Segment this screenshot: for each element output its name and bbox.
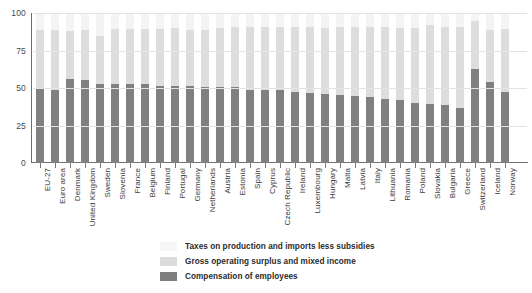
bar-segment-taxes bbox=[231, 13, 239, 27]
bar-segment-taxes bbox=[321, 13, 329, 28]
x-axis-tick-label: Austria bbox=[223, 168, 232, 194]
gridline bbox=[33, 88, 527, 89]
bar-segment-gross-operating-surplus bbox=[141, 29, 149, 85]
bar-segment-compensation bbox=[411, 103, 419, 163]
y-axis-tick-label: 0 bbox=[21, 158, 26, 168]
bar-segment-gross-operating-surplus bbox=[126, 29, 134, 84]
bar-segment-compensation bbox=[156, 86, 164, 163]
bar-segment-taxes bbox=[306, 13, 314, 27]
bar-segment-compensation bbox=[306, 93, 314, 164]
legend-label-compensation: Compensation of employees bbox=[185, 272, 298, 281]
bar-segment-taxes bbox=[501, 13, 509, 29]
gridline bbox=[33, 13, 527, 14]
bar-segment-compensation bbox=[126, 84, 134, 164]
bar-segment-taxes bbox=[456, 13, 464, 27]
bar-segment-compensation bbox=[276, 90, 284, 163]
bar-segment-compensation bbox=[456, 108, 464, 164]
bar-segment-gross-operating-surplus bbox=[486, 30, 494, 82]
bar-segment-taxes bbox=[141, 13, 149, 29]
x-axis-tick-label: Denmark bbox=[73, 168, 82, 201]
bar-segment-gross-operating-surplus bbox=[231, 27, 239, 87]
y-axis-tick-label: 25 bbox=[16, 121, 26, 131]
bar-segment-compensation bbox=[96, 84, 104, 164]
bar-segment-gross-operating-surplus bbox=[51, 30, 59, 89]
bar-segment-gross-operating-surplus bbox=[186, 30, 194, 86]
bar-segment-taxes bbox=[486, 13, 494, 30]
bar-segment-taxes bbox=[156, 13, 164, 29]
bar-segment-gross-operating-surplus bbox=[456, 27, 464, 108]
bar-segment-compensation bbox=[366, 97, 374, 163]
bar-segment-compensation bbox=[381, 99, 389, 163]
x-axis-tick-label: Romania bbox=[403, 168, 412, 201]
bar-segment-gross-operating-surplus bbox=[441, 27, 449, 105]
bar-segment-gross-operating-surplus bbox=[291, 27, 299, 92]
bar-segment-gross-operating-surplus bbox=[306, 27, 314, 92]
x-axis-tick-label: Iceland bbox=[493, 168, 502, 195]
bar-segment-taxes bbox=[246, 13, 254, 27]
bar-segment-compensation bbox=[81, 80, 89, 163]
bar-segment-taxes bbox=[36, 13, 44, 30]
bar-segment-taxes bbox=[411, 13, 419, 28]
bar-segment-compensation bbox=[261, 90, 269, 163]
x-axis-tick-label: Poland bbox=[418, 168, 427, 194]
x-axis-tick-label: Norway bbox=[508, 168, 517, 196]
bar-segment-compensation bbox=[441, 105, 449, 164]
x-axis-tick-label: Euro area bbox=[58, 168, 67, 204]
legend-item-taxes: Taxes on production and imports less sub… bbox=[160, 240, 500, 253]
x-axis-tick-label: Slovakia bbox=[433, 168, 442, 199]
bar-segment-compensation bbox=[171, 86, 179, 163]
gridline bbox=[33, 126, 527, 127]
bar-segment-taxes bbox=[81, 13, 89, 30]
x-axis-tick-label: Ireland bbox=[298, 168, 307, 193]
x-axis-tick-label: EU-27 bbox=[43, 168, 52, 191]
y-axis-line bbox=[31, 13, 32, 163]
chart-legend: Taxes on production and imports less sub… bbox=[160, 240, 500, 285]
x-axis-tick-label: Greece bbox=[463, 168, 472, 195]
bar-segment-gross-operating-surplus bbox=[336, 27, 344, 95]
bar-segment-compensation bbox=[291, 92, 299, 163]
legend-item-compensation: Compensation of employees bbox=[160, 270, 500, 283]
bar-segment-taxes bbox=[186, 13, 194, 30]
bar-segment-taxes bbox=[201, 13, 209, 30]
x-axis-tick-label: Bulgaria bbox=[448, 168, 457, 198]
bar-segment-gross-operating-surplus bbox=[471, 21, 479, 69]
bar-segment-taxes bbox=[66, 13, 74, 31]
bar-segment-compensation bbox=[471, 69, 479, 164]
legend-label-taxes: Taxes on production and imports less sub… bbox=[185, 242, 375, 251]
x-axis-tick-label: Estonia bbox=[238, 168, 247, 195]
bar-segment-gross-operating-surplus bbox=[396, 28, 404, 100]
chart-container: 0255075100 EU-27Euro areaDenmarkUnited K… bbox=[0, 0, 532, 293]
bar-segment-compensation bbox=[111, 84, 119, 164]
x-axis-tick-label: Germany bbox=[193, 168, 202, 202]
bar-segment-taxes bbox=[426, 13, 434, 25]
x-axis-tick-label: Spain bbox=[253, 168, 262, 189]
y-axis-tick-label: 75 bbox=[16, 46, 26, 56]
plot-area bbox=[33, 13, 527, 163]
bar-segment-gross-operating-surplus bbox=[276, 27, 284, 91]
bar-segment-taxes bbox=[96, 13, 104, 36]
bar-segment-gross-operating-surplus bbox=[426, 25, 434, 104]
bar-segment-compensation bbox=[486, 82, 494, 163]
x-axis-tick-label: Luxembourg bbox=[313, 168, 322, 213]
y-axis-labels: 0255075100 bbox=[0, 13, 28, 163]
bar-segment-gross-operating-surplus bbox=[36, 30, 44, 88]
bar-segment-compensation bbox=[186, 86, 194, 163]
bar-segment-taxes bbox=[51, 13, 59, 30]
bar-segment-taxes bbox=[351, 13, 359, 27]
x-axis-tick-label: United Kingdom bbox=[88, 168, 97, 226]
x-axis-tick-label: Slovenia bbox=[118, 168, 127, 200]
bar-segment-taxes bbox=[276, 13, 284, 27]
gridline bbox=[33, 51, 527, 52]
y-axis-tick-label: 50 bbox=[16, 83, 26, 93]
bar-segment-gross-operating-surplus bbox=[246, 27, 254, 90]
bar-segment-gross-operating-surplus bbox=[321, 28, 329, 94]
x-axis-tick-label: Malta bbox=[343, 168, 352, 188]
bar-segment-taxes bbox=[261, 13, 269, 27]
x-axis-tick-label: Finland bbox=[163, 168, 172, 195]
x-axis-tick-label: Sweden bbox=[103, 168, 112, 198]
x-axis-tick-label: Portugal bbox=[178, 168, 187, 199]
bar-segment-gross-operating-surplus bbox=[96, 36, 104, 83]
bar-segment-gross-operating-surplus bbox=[261, 27, 269, 90]
x-axis-tick-label: Italy bbox=[373, 168, 382, 183]
bar-segment-compensation bbox=[426, 104, 434, 163]
